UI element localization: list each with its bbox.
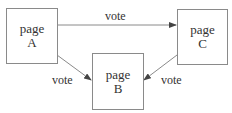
node-c-line2: C xyxy=(198,37,207,51)
edge-label-a-to-c: vote xyxy=(105,10,126,22)
node-b-line2: B xyxy=(114,82,123,96)
node-a-line2: A xyxy=(27,36,36,50)
node-a-line1: page xyxy=(20,22,45,36)
vote-diagram: page A page B page C vote vote vote xyxy=(0,0,232,113)
edge-label-c-to-b: vote xyxy=(161,74,182,86)
node-page-a: page A xyxy=(6,8,58,64)
node-b-line1: page xyxy=(106,68,131,82)
node-c-line1: page xyxy=(190,23,215,37)
edge-label-a-to-b: vote xyxy=(52,74,73,86)
node-page-b: page B xyxy=(92,53,144,110)
node-page-c: page C xyxy=(177,9,228,65)
